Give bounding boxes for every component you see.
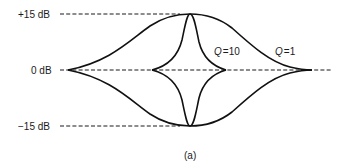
curve-label-q1: Q=1 <box>275 46 296 57</box>
curve-q10-boost <box>152 14 226 70</box>
curve-q1-boost <box>68 14 312 70</box>
level-label-0: 0 dB <box>31 65 52 76</box>
level-label-plus15: +15 dB <box>18 9 50 20</box>
curve-q1-cut <box>68 70 312 126</box>
eq-response-diagram: +15 dB 0 dB −15 dB Q=10 Q=1 (a) <box>0 0 349 168</box>
curve-q10-cut <box>152 70 226 126</box>
level-label-minus15: −15 dB <box>18 121 50 132</box>
curve-label-q10: Q=10 <box>214 46 240 57</box>
figure-caption: (a) <box>184 150 196 161</box>
